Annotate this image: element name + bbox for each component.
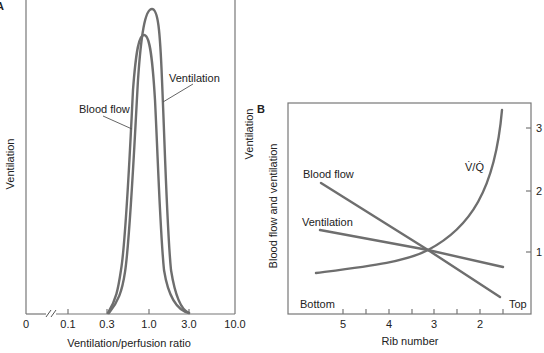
blood-flow-leader-line bbox=[103, 116, 132, 129]
panel-a-xtick-1: 0.1 bbox=[60, 318, 75, 330]
panel-b-xtick-2: 2 bbox=[477, 318, 483, 330]
panel-b-blood-flow-label: Blood flow bbox=[303, 168, 354, 180]
panel-b-x-label: Rib number bbox=[382, 335, 439, 347]
panel-b: B Ventilation Blood flow and ventilation… bbox=[243, 103, 542, 347]
ventilation-leader-line bbox=[163, 84, 193, 102]
panel-b-xtick-3: 3 bbox=[431, 318, 437, 330]
panel-b-outer-ventilation-label: Ventilation bbox=[243, 109, 255, 160]
figure: A 0 0.1 0.3 1.0 3.0 10.0 Ventilation/per… bbox=[0, 0, 544, 353]
panel-b-right-tick-1: 1 bbox=[536, 246, 542, 258]
panel-a-xtick-2: 0.3 bbox=[99, 318, 114, 330]
panel-a-label: A bbox=[0, 0, 4, 12]
panel-b-bottom-label: Bottom bbox=[300, 298, 335, 310]
panel-a-y-label: Ventilation bbox=[4, 139, 16, 190]
panel-a: A 0 0.1 0.3 1.0 3.0 10.0 Ventilation/per… bbox=[0, 0, 246, 349]
panel-a-x-label: Ventilation/perfusion ratio bbox=[67, 337, 191, 349]
panel-b-xtick-4: 4 bbox=[386, 318, 392, 330]
panel-b-label: B bbox=[257, 103, 265, 115]
panel-a-xtick-4: 3.0 bbox=[181, 318, 196, 330]
panel-b-right-tick-2: 2 bbox=[536, 185, 542, 197]
panel-b-vq-label: V̇/Q̇ bbox=[465, 161, 484, 173]
panel-b-y-label: Blood flow and ventilation bbox=[267, 144, 279, 269]
axis-break-icon bbox=[46, 310, 56, 317]
panel-b-right-ticks bbox=[526, 128, 531, 252]
panel-b-plot-frame bbox=[288, 103, 531, 314]
panel-a-ventilation-label: Ventilation bbox=[169, 72, 220, 84]
panel-a-xtick-3: 1.0 bbox=[141, 318, 156, 330]
panel-b-right-tick-3: 3 bbox=[536, 122, 542, 134]
panel-a-xtick-0: 0 bbox=[23, 318, 29, 330]
panel-a-xtick-5: 10.0 bbox=[224, 318, 245, 330]
panel-b-blood-flow-line bbox=[321, 183, 500, 297]
panel-b-x-ticks bbox=[343, 309, 503, 314]
panel-a-blood-flow-label: Blood flow bbox=[79, 103, 130, 115]
panel-a-x-ticks bbox=[68, 309, 189, 314]
panel-b-xtick-5: 5 bbox=[340, 318, 346, 330]
panel-b-vq-curve bbox=[316, 110, 502, 273]
panel-b-ventilation-line bbox=[320, 230, 503, 267]
panel-b-top-label: Top bbox=[509, 298, 527, 310]
panel-b-ventilation-label: Ventilation bbox=[302, 216, 353, 228]
